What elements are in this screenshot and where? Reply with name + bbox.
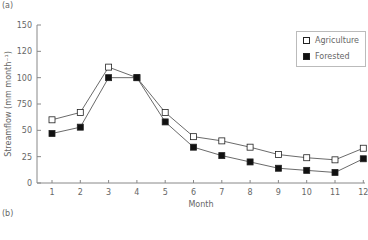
open-square-marker-icon: [162, 109, 168, 115]
filled-square-marker-icon: [304, 167, 310, 173]
x-tick-label: 9: [276, 188, 281, 197]
y-tick-label: 120: [17, 47, 32, 56]
x-tick-label: 7: [219, 188, 224, 197]
filled-square-marker-icon: [162, 119, 168, 125]
x-tick-label: 11: [330, 188, 340, 197]
open-square-marker-icon: [106, 64, 112, 70]
open-square-marker-icon: [360, 145, 366, 151]
open-square-marker-icon: [332, 157, 338, 163]
legend-item-agriculture: Agriculture: [297, 32, 365, 48]
x-tick-label: 1: [49, 188, 54, 197]
filled-square-marker-icon: [106, 75, 112, 81]
filled-square-marker-icon: [219, 153, 225, 159]
series-line-agriculture: [52, 67, 363, 160]
x-tick-label: 3: [106, 188, 111, 197]
open-square-marker-icon: [219, 138, 225, 144]
filled-square-marker-icon: [332, 169, 338, 175]
legend-label: Agriculture: [315, 36, 359, 45]
x-tick-label: 8: [248, 188, 253, 197]
filled-square-marker-icon: [303, 53, 310, 60]
open-square-marker-icon: [303, 37, 310, 44]
legend-item-forested: Forested: [297, 48, 365, 64]
filled-square-marker-icon: [49, 130, 55, 136]
y-tick-label: 750: [17, 100, 32, 109]
open-square-marker-icon: [247, 144, 253, 150]
filled-square-marker-icon: [134, 75, 140, 81]
x-tick-label: 6: [191, 188, 196, 197]
y-axis-title: Streamflow (mm month⁻¹): [4, 51, 13, 157]
x-tick-label: 12: [358, 188, 368, 197]
y-tick-label: 25: [22, 153, 32, 162]
filled-square-marker-icon: [191, 144, 197, 150]
y-tick-label: 0: [27, 179, 32, 188]
legend-label: Forested: [315, 52, 350, 61]
x-tick-label: 4: [134, 188, 139, 197]
chart-legend: Agriculture Forested: [296, 31, 366, 67]
open-square-marker-icon: [77, 109, 83, 115]
x-axis-title: Month: [188, 200, 213, 209]
x-tick-label: 10: [302, 188, 312, 197]
y-tick-label: 150: [17, 21, 32, 30]
filled-square-marker-icon: [275, 165, 281, 171]
y-tick-label: 50: [22, 126, 32, 135]
filled-square-marker-icon: [360, 156, 366, 162]
x-tick-label: 2: [78, 188, 83, 197]
open-square-marker-icon: [304, 155, 310, 161]
open-square-marker-icon: [49, 117, 55, 123]
x-tick-label: 5: [163, 188, 168, 197]
y-tick-label: 100: [17, 74, 32, 83]
filled-square-marker-icon: [247, 159, 253, 165]
open-square-marker-icon: [191, 134, 197, 140]
open-square-marker-icon: [275, 152, 281, 158]
filled-square-marker-icon: [77, 124, 83, 130]
